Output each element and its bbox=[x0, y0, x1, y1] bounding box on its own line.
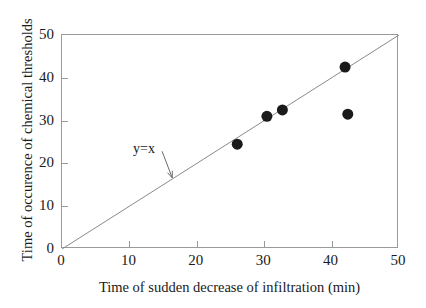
x-axis-tick-label: 30 bbox=[256, 253, 271, 268]
x-axis-tick-label: 40 bbox=[323, 253, 338, 268]
x-axis-tick-label: 50 bbox=[391, 253, 406, 268]
y-axis-tick bbox=[62, 206, 68, 207]
x-axis-tick-label: 0 bbox=[57, 253, 65, 268]
x-axis-tick-label: 10 bbox=[121, 253, 136, 268]
data-point-marker bbox=[277, 104, 288, 115]
x-axis-tick-label: 20 bbox=[188, 253, 203, 268]
x-axis-tick-labels: 01020304050 bbox=[61, 253, 398, 273]
plot-canvas bbox=[62, 35, 399, 249]
y-axis-tick-label: 10 bbox=[39, 198, 54, 213]
plot-area bbox=[61, 34, 398, 248]
x-axis-tick bbox=[332, 241, 333, 247]
y-axis-tick-label: 40 bbox=[39, 69, 54, 84]
y-axis-tick-label: 0 bbox=[47, 241, 55, 256]
y-axis-tick bbox=[62, 121, 68, 122]
y-axis-tick bbox=[62, 78, 68, 79]
data-point-marker bbox=[232, 139, 243, 150]
data-point-marker bbox=[342, 109, 353, 120]
x-axis-title: Time of sudden decrease of infiltration … bbox=[61, 279, 398, 296]
y-axis-tick bbox=[62, 163, 68, 164]
data-point-marker bbox=[261, 111, 272, 122]
y-axis-tick-label: 20 bbox=[39, 155, 54, 170]
y-axis-tick-label: 30 bbox=[39, 112, 54, 127]
data-point-marker bbox=[340, 62, 351, 73]
x-axis-tick bbox=[129, 241, 130, 247]
x-axis-tick bbox=[264, 241, 265, 247]
x-axis-tick bbox=[197, 241, 198, 247]
y-axis-tick-label: 50 bbox=[39, 27, 54, 42]
y-axis-title: Time of occurence of chemical thresholds bbox=[19, 22, 36, 262]
figure-root: 01020304050 01020304050 Time of sudden d… bbox=[0, 0, 426, 308]
